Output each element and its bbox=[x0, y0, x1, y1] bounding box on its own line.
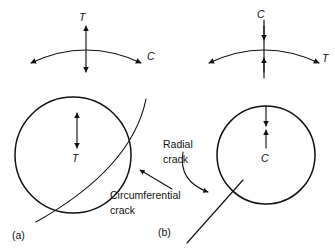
panel-b-crack-label-line2: crack bbox=[163, 153, 189, 165]
figure-container: T C T Circumferential crack (a) C T C bbox=[0, 0, 335, 252]
panel-a-crack-label-line1: Circumferential bbox=[110, 189, 181, 201]
panel-a-label: (a) bbox=[12, 229, 25, 241]
panel-a-crack-label-line2: crack bbox=[110, 204, 136, 216]
panel-b-arc-stress-label: T bbox=[322, 52, 330, 64]
panel-a-vertical-stress-label: T bbox=[79, 11, 87, 23]
figure-svg: T C T Circumferential crack (a) C T C bbox=[0, 0, 335, 252]
panel-a-crack-leader-line bbox=[140, 170, 172, 189]
panel-b-stress-diagram bbox=[209, 20, 319, 78]
panel-a-interior-label: T bbox=[72, 152, 80, 164]
panel-b-radial-crack bbox=[187, 180, 243, 243]
panel-b-label: (b) bbox=[158, 226, 171, 238]
panel-b-interior-label: C bbox=[261, 152, 269, 164]
panel-a-arc-stress-label: C bbox=[147, 50, 155, 62]
panel-b-crack-label-line1: Radial bbox=[163, 138, 193, 150]
panel-a-stress-diagram bbox=[31, 26, 141, 72]
panel-b-vertical-stress-label: C bbox=[257, 8, 265, 20]
